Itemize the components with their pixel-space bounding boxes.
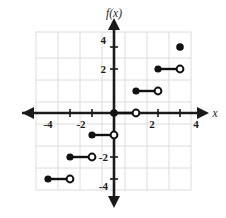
x-axis-arrow-left — [22, 107, 34, 119]
x-tick-label--4: -4 — [43, 118, 53, 130]
x-axis-title: x — [211, 107, 218, 119]
open-endpoint-marker — [67, 176, 74, 183]
y-tick-label-4: 4 — [101, 34, 107, 46]
open-endpoint-marker — [177, 66, 184, 73]
closed-endpoint-marker — [110, 109, 118, 117]
open-endpoint-marker — [89, 154, 96, 161]
y-tick-label--4: -4 — [99, 180, 109, 192]
open-endpoint-marker — [155, 88, 162, 95]
closed-endpoint-marker — [88, 131, 95, 138]
y-tick-label--2: -2 — [99, 151, 109, 163]
y-axis-arrow-up — [108, 18, 120, 30]
open-endpoint-marker — [133, 110, 140, 117]
closed-endpoint-marker — [154, 65, 161, 72]
isolated-point-marker — [176, 43, 184, 51]
graph-canvas: -4 -2 2 4 4 2 -2 -4 f(x) x — [0, 0, 226, 218]
x-tick-label-2: 2 — [149, 118, 155, 130]
y-axis-arrow-down — [108, 196, 120, 208]
x-tick-label-4: 4 — [193, 118, 199, 130]
step-function-graph: -4 -2 2 4 4 2 -2 -4 f(x) x — [0, 0, 226, 218]
y-axis-title: f(x) — [106, 7, 122, 20]
closed-endpoint-marker — [66, 153, 73, 160]
closed-endpoint-marker — [44, 175, 51, 182]
y-tick-label-2: 2 — [101, 63, 107, 75]
x-tick-label--2: -2 — [76, 118, 86, 130]
closed-endpoint-marker — [132, 87, 139, 94]
open-endpoint-marker — [111, 132, 118, 139]
x-axis-arrow-right — [197, 107, 209, 119]
